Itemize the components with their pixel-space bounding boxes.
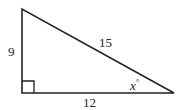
triangle — [22, 9, 174, 93]
triangle-diagram: 9 15 12 x° — [0, 0, 186, 110]
hypotenuse-label: 15 — [99, 35, 112, 50]
degree-symbol: ° — [136, 77, 140, 87]
right-angle-marker — [22, 81, 34, 93]
horizontal-leg-label: 12 — [83, 95, 96, 110]
vertical-leg-label: 9 — [8, 44, 15, 59]
angle-label: x° — [129, 77, 140, 93]
